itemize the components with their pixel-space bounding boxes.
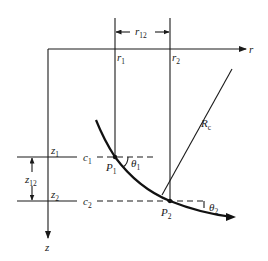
radius-of-curvature-line: [162, 69, 232, 195]
c2-label: c2: [83, 195, 92, 210]
diagram-canvas: r z r1 r2 r12 z1 c1 z2 c2 z12 P1 P2 θ1 θ…: [0, 0, 268, 261]
z-axis-label: z: [44, 241, 50, 253]
trajectory-arrowhead: [226, 213, 236, 221]
r1-label: r1: [117, 51, 125, 66]
point-p2: [168, 199, 172, 203]
r12-label: r12: [135, 25, 147, 40]
p2-label: P2: [160, 206, 172, 221]
r2-label: r2: [172, 51, 180, 66]
z12-label: z12: [24, 173, 37, 188]
c1-label: c1: [83, 151, 92, 166]
r-axis-label: r: [249, 43, 254, 55]
theta1-arc: [123, 157, 128, 167]
rc-label: Rc: [200, 117, 212, 132]
theta1-label: θ1: [131, 157, 140, 172]
p1-label: P1: [105, 161, 117, 176]
point-p1: [113, 155, 117, 159]
